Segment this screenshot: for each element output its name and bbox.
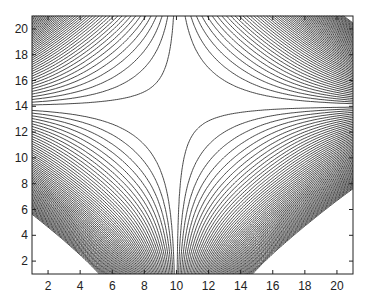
x-tick-label: 14 <box>234 279 248 293</box>
x-tick-label: 12 <box>202 279 216 293</box>
y-tick-label: 14 <box>15 99 29 113</box>
y-tick-label: 6 <box>21 203 28 217</box>
x-tick-label: 6 <box>109 279 116 293</box>
x-tick-label: 16 <box>266 279 280 293</box>
y-tick-label: 8 <box>21 177 28 191</box>
x-tick-label: 18 <box>298 279 312 293</box>
y-tick-label: 16 <box>15 74 29 88</box>
x-tick-label: 4 <box>77 279 84 293</box>
x-tick-label: 2 <box>45 279 52 293</box>
y-tick-label: 12 <box>15 125 29 139</box>
y-tick-label: 10 <box>15 151 29 165</box>
y-tick-label: 18 <box>15 48 29 62</box>
x-tick-label: 10 <box>170 279 184 293</box>
contour-plot: 2468101214161820 2468101214161820 <box>0 0 368 304</box>
x-tick-label: 20 <box>330 279 344 293</box>
y-tick-label: 2 <box>21 254 28 268</box>
y-tick-label: 4 <box>21 228 28 242</box>
y-tick-label: 20 <box>15 22 29 36</box>
x-tick-label: 8 <box>141 279 148 293</box>
